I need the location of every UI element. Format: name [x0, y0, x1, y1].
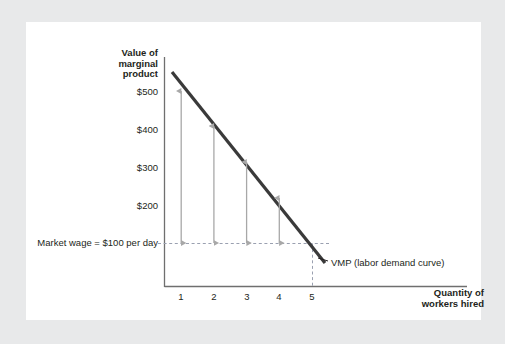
x-tick-label-1: 1: [171, 291, 191, 302]
y-tick-label-300: $300: [112, 162, 158, 173]
y-tick-label-400: $400: [112, 124, 158, 135]
market-wage-label: Market wage = $100 per day: [34, 237, 158, 248]
x-tick-label-4: 4: [269, 291, 289, 302]
x-axis-title: Quantity of workers hired: [398, 288, 484, 309]
vmp-curve-label: VMP (labor demand curve): [331, 257, 444, 268]
y-tick-label-200: $200: [112, 200, 158, 211]
vmp-curve: [172, 72, 325, 263]
figure-page: Value of marginal product Quantity of wo…: [0, 0, 505, 344]
y-tick-label-500: $500: [112, 86, 158, 97]
x-tick-label-5: 5: [302, 291, 322, 302]
x-tick-label-3: 3: [237, 291, 257, 302]
x-tick-label-2: 2: [204, 291, 224, 302]
y-axis-title: Value of marginal product: [86, 48, 158, 80]
